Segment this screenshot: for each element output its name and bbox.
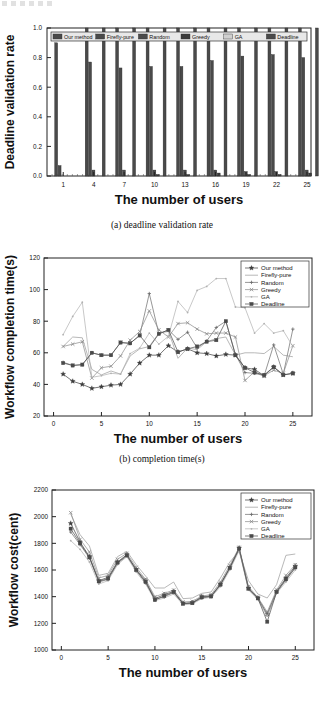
marker-dot — [266, 615, 268, 617]
legend-label: Deadline — [277, 34, 298, 40]
marker-dot — [148, 332, 150, 334]
marker-square — [109, 353, 112, 356]
bar — [285, 28, 288, 176]
marker-dot — [285, 581, 287, 583]
marker-dot — [120, 373, 122, 375]
marker-square — [148, 346, 151, 349]
x-tick-label: 5 — [100, 420, 104, 427]
marker-square — [205, 340, 208, 343]
marker-square — [97, 580, 100, 583]
legend-label: Random — [149, 34, 170, 40]
marker-square — [250, 302, 253, 305]
x-tick-label: 20 — [241, 420, 249, 427]
marker-square — [195, 345, 198, 348]
x-tick-label: 25 — [289, 420, 297, 427]
x-tick-label: 22 — [273, 181, 281, 188]
marker-square — [181, 602, 184, 605]
marker-dot — [91, 376, 93, 378]
x-tick-label: 20 — [245, 654, 253, 661]
x-tick-label: 0 — [60, 654, 64, 661]
x-tick-label: 19 — [242, 181, 250, 188]
legend-label: Greedy — [261, 519, 281, 525]
legend-label: GA — [261, 526, 270, 532]
marker-square — [71, 364, 74, 367]
bar — [302, 58, 305, 176]
marker-square — [247, 587, 250, 590]
legend-label: Our method — [64, 34, 92, 40]
y-tick-label: 0.4 — [33, 113, 42, 120]
bar — [55, 43, 58, 176]
marker-square — [128, 342, 131, 345]
bar — [119, 68, 122, 176]
bar — [241, 56, 244, 176]
x-axis-title: The number of users — [115, 192, 244, 207]
y-tick-label: 1000 — [34, 646, 49, 653]
marker-square — [172, 590, 175, 593]
marker-dot — [263, 323, 265, 325]
bar — [271, 55, 274, 176]
marker-dot — [139, 347, 141, 349]
x-tick-label: 15 — [198, 654, 206, 661]
marker-square — [266, 620, 269, 623]
x-tick-label: 13 — [182, 181, 190, 188]
x-tick-label: 15 — [194, 420, 202, 427]
marker-square — [243, 366, 246, 369]
marker-square — [176, 350, 179, 353]
legend-label: Random — [261, 280, 284, 286]
marker-dot — [98, 583, 100, 585]
bar — [146, 28, 149, 176]
x-tick-label: 5 — [106, 654, 110, 661]
y-tick-label: 0.0 — [33, 172, 42, 179]
marker-dot — [177, 301, 179, 303]
legend-swatch — [266, 34, 275, 39]
bar — [210, 61, 213, 176]
bar — [163, 28, 166, 176]
marker-square — [234, 353, 237, 356]
legend-label: GA — [261, 294, 270, 300]
marker-dot — [225, 278, 227, 280]
y-tick-label: 80 — [33, 318, 41, 325]
caption-b: (b) completion time(s) — [0, 454, 324, 464]
y-axis-title: Workflow completion time(s) — [3, 255, 17, 419]
y-tick-label: 0.6 — [33, 84, 42, 91]
bar — [194, 28, 197, 176]
y-tick-label: 100 — [29, 286, 40, 293]
marker-square — [200, 596, 203, 599]
marker-square — [294, 566, 297, 569]
marker-square — [163, 594, 166, 597]
marker-square — [191, 601, 194, 604]
y-tick-label: 120 — [29, 254, 40, 261]
line-chart-completion-svg: 204060801001200510152025Our methodFirefl… — [0, 244, 324, 452]
marker-square — [262, 373, 265, 376]
marker-square — [224, 320, 227, 323]
bar — [116, 28, 119, 176]
marker-dot — [89, 561, 91, 563]
legend-swatch — [96, 34, 105, 39]
marker-square — [186, 347, 189, 350]
marker-square — [135, 568, 138, 571]
marker-square — [69, 527, 72, 530]
y-tick-label: 1800 — [34, 540, 49, 547]
bar — [133, 28, 136, 176]
bar — [207, 28, 210, 176]
y-tick-label: 2200 — [34, 486, 49, 493]
marker-square — [144, 580, 147, 583]
marker-square — [100, 353, 103, 356]
y-tick-label: 1600 — [34, 566, 49, 573]
legend-label: Greedy — [261, 287, 281, 293]
marker-dot — [70, 540, 72, 542]
bar — [102, 28, 105, 176]
chart-completion-time: 204060801001200510152025Our methodFirefl… — [0, 244, 324, 472]
marker-dot — [158, 343, 160, 345]
marker-square — [61, 361, 64, 364]
bar — [89, 62, 92, 176]
marker-dot — [251, 528, 253, 530]
legend-label: Our method — [261, 497, 293, 503]
x-tick-label: 25 — [292, 654, 300, 661]
marker-square — [253, 371, 256, 374]
y-tick-label: 1.0 — [33, 24, 42, 31]
legend-swatch — [138, 34, 147, 39]
marker-dot — [101, 375, 103, 377]
x-tick-label: 0 — [52, 420, 56, 427]
legend-label: Firefly-pure — [107, 34, 134, 40]
